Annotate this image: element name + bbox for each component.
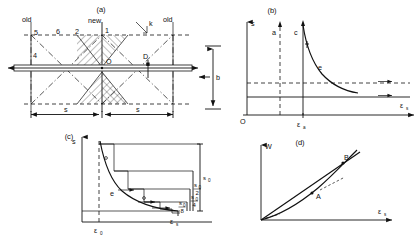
label-epsilon-s-axis-b: ε s (400, 101, 409, 111)
label-s0-quarter: s 0 4 (191, 194, 199, 208)
panel-b-tag: (b) (267, 6, 277, 15)
svg-text:4: 4 (193, 202, 197, 208)
label-A: A (316, 192, 321, 201)
label-D: D (143, 52, 148, 61)
svg-text:a: a (303, 125, 306, 130)
panel-d: (d) W A B ε s (261, 138, 392, 220)
label-s-left: s (64, 105, 68, 114)
label-a: a (272, 28, 276, 37)
label-old-right: old (163, 15, 173, 24)
point-A-marker (311, 192, 314, 195)
b-dimension-bracket: b (199, 46, 221, 109)
chord-O-B (261, 152, 360, 220)
staircase-steps (99, 144, 180, 213)
svg-text:ε: ε (378, 207, 382, 216)
label-6: 6 (56, 27, 60, 36)
label-epsilon-s-d: ε s (378, 207, 387, 217)
svg-text:8: 8 (181, 208, 185, 214)
label-s0-eighth: s 0 8 (179, 200, 187, 214)
dimension-bar (31, 111, 173, 118)
svg-text:s: s (179, 200, 182, 206)
svg-text:2: 2 (196, 190, 200, 196)
label-B: B (344, 153, 349, 162)
svg-text:0: 0 (100, 231, 103, 236)
svg-text:s: s (406, 106, 409, 111)
svg-text:s: s (191, 194, 194, 200)
panel-b: (b) b s a (199, 6, 414, 130)
panel-d-tag: (d) (295, 138, 305, 147)
panel-a: (a) (8, 5, 198, 118)
label-new: new (88, 16, 102, 25)
panel-a-tag: (a) (96, 5, 106, 14)
label-4: 4 (33, 51, 37, 60)
D-square (146, 63, 149, 66)
svg-text:s: s (203, 175, 206, 181)
svg-text:ε: ε (400, 101, 404, 110)
label-origin-O: O (240, 117, 246, 126)
svg-text:0: 0 (208, 178, 211, 183)
label-epsilon-0: ε 0 (94, 226, 103, 236)
decay-curve-e-c (100, 141, 178, 211)
figure-container: (a) (0, 0, 419, 241)
label-1: 1 (105, 26, 109, 35)
label-e: e (318, 63, 322, 72)
svg-text:s: s (176, 222, 179, 227)
label-c: c (294, 28, 298, 37)
svg-text:ε: ε (94, 226, 98, 235)
label-s-right: s (136, 105, 140, 114)
label-b: b (216, 73, 220, 82)
label-s-axis: s (251, 19, 255, 28)
label-O: O (106, 57, 112, 66)
svg-text:s: s (384, 212, 387, 217)
svg-text:ε: ε (170, 217, 174, 226)
label-5: 5 (34, 28, 38, 37)
label-epsilon-a: ε a (297, 120, 306, 130)
intersection-marker (105, 157, 108, 160)
label-k: k (149, 19, 153, 28)
label-old-left: old (22, 15, 32, 24)
four-panel-figure: (a) (0, 0, 419, 241)
panel-c: (c) (65, 132, 212, 236)
point-O-marker (101, 67, 103, 69)
k-angle-mark (136, 22, 147, 33)
label-2: 2 (75, 27, 79, 36)
label-W-axis: W (265, 142, 272, 151)
label-s0: s 0 (203, 175, 211, 183)
epsilon-a-arrowhead (278, 21, 282, 27)
svg-text:s: s (194, 182, 197, 188)
svg-text:ε: ε (297, 120, 301, 129)
label-s-axis-c: s (72, 137, 76, 146)
label-e-c: e (110, 189, 114, 198)
